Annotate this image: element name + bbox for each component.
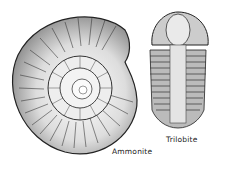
- ammonite-label: Ammonite: [112, 147, 152, 156]
- fossil-illustration: Trilobite Ammonite: [0, 0, 229, 169]
- trilobite-label: Trilobite: [166, 135, 198, 144]
